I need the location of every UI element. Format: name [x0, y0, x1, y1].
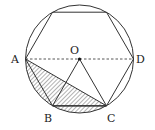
geometry-figure: O A D B C [0, 0, 155, 130]
label-A: A [10, 53, 20, 66]
hatched-region [25, 59, 106, 113]
label-B: B [44, 112, 52, 125]
label-C: C [107, 112, 115, 125]
center-point-O [78, 57, 81, 60]
label-O: O [70, 44, 79, 57]
label-D: D [136, 53, 145, 66]
